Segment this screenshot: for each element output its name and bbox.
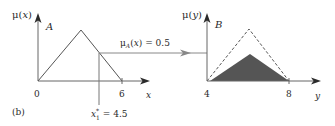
clipped-output-region	[210, 54, 289, 81]
left-x-axis-label: x	[146, 90, 151, 100]
membership-triangle-a	[38, 30, 122, 81]
tick-label-6: 6	[119, 89, 125, 99]
tick-label-8: 8	[286, 89, 292, 99]
fuzzy-inference-diagram: μ(x) A 0 6 x (b) x*1 = 4.5 μA(x) = 0.5 μ…	[0, 0, 335, 126]
tick-label-4: 4	[204, 89, 210, 99]
right-y-axis-label: μ(y)	[182, 9, 202, 20]
left-chart: μ(x) A 0 6 x (b) x*1 = 4.5 μA(x) = 0.5	[12, 9, 207, 121]
right-chart: μ(y) B 4 8 y	[182, 9, 321, 101]
set-a-label: A	[45, 21, 53, 32]
right-x-axis-label: y	[314, 91, 321, 101]
input-value-label: x*1 = 4.5	[91, 107, 128, 121]
tick-label-0: 0	[34, 89, 40, 99]
set-b-label: B	[214, 19, 222, 30]
membership-value-label: μA(x) = 0.5	[120, 38, 170, 49]
panel-label: (b)	[12, 107, 25, 117]
left-y-axis-label: μ(x)	[12, 9, 32, 20]
